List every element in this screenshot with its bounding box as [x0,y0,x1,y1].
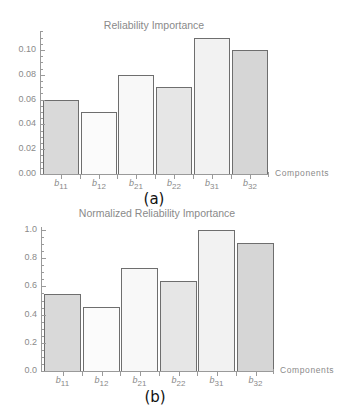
y-major-tick [41,100,45,101]
x-axis [41,371,273,372]
y-minor-tick [42,293,44,294]
y-major-tick [42,343,46,344]
y-minor-tick [42,336,44,337]
bar-b22 [156,87,192,175]
y-minor-tick [41,118,43,119]
label-subscript: 22 [177,379,186,388]
bar-b32 [232,50,268,175]
x-boundary-tick [117,175,118,179]
x-tick-label-b11: b11 [54,178,67,191]
y-minor-tick [41,31,43,32]
y-tick-label: 0.02 [4,143,36,153]
y-tick-label: 0.0 [5,365,37,375]
label-subscript: 22 [172,182,181,191]
bar-b12 [83,307,120,372]
y-tick-label: 0.00 [4,168,36,178]
label-subscript: 11 [59,182,67,191]
bar-b12 [81,112,117,175]
chart-title: Normalized Reliability Importance [79,207,235,219]
y-minor-tick [42,265,44,266]
x-boundary-tick [193,175,194,179]
label-subscript: 31 [215,379,224,388]
x-tick-label-b12: b12 [92,178,106,191]
y-tick-label: 0.2 [5,337,37,347]
y-minor-tick [42,364,44,365]
x-tick-label-b31: b31 [205,178,219,191]
y-minor-tick [41,131,43,132]
y-major-tick [41,174,45,175]
label-subscript: 21 [134,182,143,191]
x-boundary-tick [231,175,232,179]
y-minor-tick [42,272,44,273]
y-minor-tick [41,93,43,94]
y-minor-tick [41,162,43,163]
x-tick-label-b12: b12 [95,375,109,388]
y-minor-tick [41,112,43,113]
bar-b22 [160,281,197,372]
x-boundary-tick [80,175,81,179]
y-major-tick [42,371,46,372]
y-minor-tick [42,322,44,323]
y-major-tick [41,124,45,125]
y-tick-label: 0.6 [5,280,37,290]
y-major-tick [42,258,46,259]
bar-b21 [118,75,154,175]
y-minor-tick [41,81,43,82]
y-minor-tick [41,106,43,107]
y-minor-tick [42,350,44,351]
y-major-tick [42,315,46,316]
label-subscript: 11 [61,379,69,388]
bar-b31 [198,230,235,372]
y-major-tick [42,230,46,231]
y-tick-label: 0.06 [4,94,36,104]
label-subscript: 32 [254,379,263,388]
y-tick-label: 0.10 [4,44,36,54]
y-tick-label: 0.4 [5,309,37,319]
label-subscript: 21 [138,379,147,388]
y-minor-tick [42,244,44,245]
y-major-tick [41,75,45,76]
bar-b21 [121,268,158,372]
y-minor-tick [42,329,44,330]
y-minor-tick [42,251,44,252]
y-major-tick [42,286,46,287]
y-minor-tick [41,137,43,138]
y-tick-label: 0.8 [5,252,37,262]
x-boundary-tick [82,372,83,376]
y-minor-tick [41,56,43,57]
figure-caption: (b) [144,388,165,406]
y-tick-label: 0.08 [4,69,36,79]
y-minor-tick [41,62,43,63]
bar-b32 [237,243,274,372]
bar-b11 [43,100,79,175]
x-tick-label-b11: b11 [56,375,69,388]
x-boundary-tick [197,372,198,376]
figure-caption: (a) [144,190,165,208]
x-axis-title: Components [275,168,329,178]
y-minor-tick [42,301,44,302]
y-minor-tick [42,308,44,309]
x-axis-end-tick [268,172,269,177]
label-subscript: 12 [97,182,106,191]
y-major-tick [41,149,45,150]
y-minor-tick [41,69,43,70]
y-axis [40,31,41,175]
y-major-tick [41,50,45,51]
y-minor-tick [41,155,43,156]
x-tick-label-b21: b21 [129,178,143,191]
y-minor-tick [41,44,43,45]
x-axis-end-tick [273,369,274,374]
x-tick-label-b32: b32 [249,375,263,388]
y-tick-label: 0.04 [4,118,36,128]
y-minor-tick [41,87,43,88]
x-axis [40,174,268,175]
bar-b11 [44,294,81,372]
y-minor-tick [41,168,43,169]
x-tick-label-b22: b22 [172,375,186,388]
x-boundary-tick [236,372,237,376]
x-tick-label-b21: b21 [133,375,147,388]
x-tick-label-b22: b22 [167,178,181,191]
y-minor-tick [42,357,44,358]
label-subscript: 12 [100,379,109,388]
y-minor-tick [42,237,44,238]
